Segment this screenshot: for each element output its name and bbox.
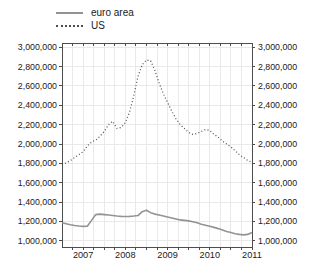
y-tick-label: 1,800,000 [258,158,297,168]
x-tick-label: 2008 [115,250,135,260]
legend-item-us: US [56,19,134,32]
legend-item-euro-area: euro area [56,6,134,19]
y-tick-label: 1,200,000 [258,216,297,226]
x-tick-label: 2007 [73,250,93,260]
legend: euro area US [56,6,134,32]
y-tick-label: 1,400,000 [18,197,57,207]
y-tick-label: 3,000,000 [258,42,297,52]
y-tick-label: 2,600,000 [258,81,297,91]
y-tick-label: 2,400,000 [258,100,297,110]
y-tick-label: 2,800,000 [258,62,297,72]
y-axis-labels-right: 1,000,0001,200,0001,400,0001,600,0001,80… [258,42,297,245]
y-tick-label: 1,600,000 [18,178,57,188]
line-chart: 1,000,0001,200,0001,400,0001,600,0001,80… [0,0,317,277]
gridlines [62,43,252,247]
y-tick-label: 2,000,000 [18,139,57,149]
y-tick-label: 1,000,000 [258,236,297,246]
y-tick-label: 1,000,000 [18,236,57,246]
legend-label-us: US [91,19,105,32]
euro-area-line-swatch-icon [56,12,83,14]
x-tick-label: 2010 [200,250,220,260]
y-tick-label: 2,600,000 [18,81,57,91]
x-tick-label: 2011 [242,250,262,260]
y-tick-label: 2,200,000 [258,120,297,130]
y-tick-label: 2,000,000 [258,139,297,149]
legend-label-euro-area: euro area [91,6,134,19]
y-tick-label: 1,800,000 [18,158,57,168]
x-axis-labels: 20072008200920102011 [73,250,262,260]
y-axis-labels-left: 1,000,0001,200,0001,400,0001,600,0001,80… [18,42,57,245]
y-tick-label: 2,400,000 [18,100,57,110]
y-tick-label: 3,000,000 [18,42,57,52]
chart-figure: euro area US 1,000,0001,200,0001,400,000… [0,0,317,277]
x-tick-label: 2009 [157,250,177,260]
y-tick-label: 2,200,000 [18,120,57,130]
y-tick-label: 2,800,000 [18,62,57,72]
y-tick-label: 1,400,000 [258,197,297,207]
us-line-swatch-icon [56,25,83,27]
y-tick-label: 1,200,000 [18,216,57,226]
y-tick-label: 1,600,000 [258,178,297,188]
